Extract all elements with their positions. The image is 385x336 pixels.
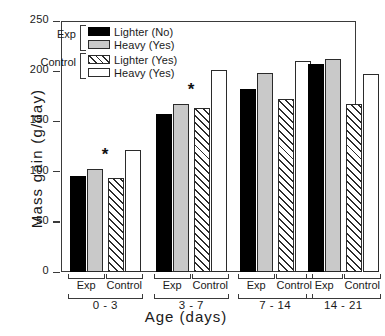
y-tick-label: 250 (0, 13, 49, 25)
y-tick-label: 100 (0, 164, 49, 176)
bar-0-3-white (125, 150, 141, 272)
y-tick-mark (53, 121, 60, 122)
legend-label-lighter-yes: Lighter (Yes) (114, 54, 177, 66)
bar-3-7-hatch (194, 108, 210, 272)
bar-3-7-black (156, 114, 172, 272)
legend-bracket-exp (80, 25, 86, 51)
bar-7-14-gray (257, 73, 273, 272)
legend-label-heavy-yes-control: Heavy (Yes) (114, 67, 175, 79)
y-tick-mark (53, 221, 60, 222)
bar-14-21-hatch (346, 104, 362, 272)
y-tick-label: 0 (0, 264, 49, 276)
bar-14-21-black (308, 64, 324, 272)
y-tick-mark (53, 21, 60, 22)
significance-asterisk: * (184, 84, 198, 96)
bar-0-3-gray (87, 169, 103, 272)
bar-7-14-black (240, 89, 256, 272)
subgroup-label-control: Control (334, 279, 385, 291)
legend-category-control: Control (22, 56, 76, 68)
legend-item-lighter-no[interactable]: Lighter (No) (88, 25, 177, 38)
y-tick-mark (53, 272, 60, 273)
bar-3-7-gray (173, 104, 189, 272)
bar-7-14-hatch (278, 99, 294, 272)
significance-asterisk: * (98, 149, 112, 161)
legend-item-heavy-yes-exp[interactable]: Heavy (Yes) (88, 38, 177, 51)
y-tick-label: 150 (0, 113, 49, 125)
bar-0-3-hatch (108, 178, 124, 272)
y-tick-label: 50 (0, 214, 49, 226)
bar-14-21-white (363, 74, 379, 272)
legend-swatch-hatch (88, 55, 110, 64)
y-axis-title: Mass gain (g/day) (28, 59, 45, 259)
legend-swatch-white (88, 68, 110, 77)
bar-0-3-black (70, 176, 86, 272)
legend-swatch-gray (88, 40, 110, 49)
legend-bracket-control (80, 53, 86, 79)
legend-swatch-black (88, 27, 110, 36)
bar-3-7-white (211, 70, 227, 272)
legend-label-heavy-yes-exp: Heavy (Yes) (114, 39, 175, 51)
legend-item-heavy-yes-control[interactable]: Heavy (Yes) (88, 66, 177, 79)
legend-item-lighter-yes[interactable]: Lighter (Yes) (88, 53, 177, 66)
x-axis-title: Age (days) (0, 308, 372, 325)
y-tick-mark (53, 71, 60, 72)
bar-14-21-gray (325, 59, 341, 272)
legend-label-lighter-no: Lighter (No) (114, 26, 173, 38)
y-tick-mark (53, 171, 60, 172)
legend-category-exp: Exp (30, 28, 76, 40)
